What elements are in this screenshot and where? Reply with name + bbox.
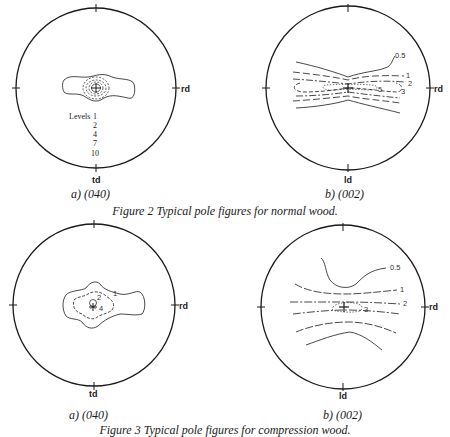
figure-3-caption: Figure 3 Typical pole figures for compre…: [0, 424, 450, 436]
contour-label: 3: [364, 306, 368, 314]
panel-label-3b: b) (002): [323, 409, 362, 421]
axis-label-rd: rd: [181, 85, 190, 94]
contour-label: 0.5: [395, 52, 405, 60]
panel-label-2b: b) (002): [325, 188, 364, 200]
contour-label: 1: [400, 286, 404, 294]
panel-label-2a: a) (040): [71, 188, 110, 200]
level-value: 10: [91, 149, 99, 158]
axis-label-td: td: [89, 390, 98, 399]
axis-label-td: td: [92, 176, 101, 185]
panel-label-3a: a) (040): [69, 409, 108, 421]
level-value: 2: [93, 121, 97, 130]
axis-label-ld: ld: [344, 176, 352, 185]
contour-label: 1: [113, 290, 117, 298]
contour-label: 2: [97, 294, 101, 302]
pole-figures-drawing: [0, 0, 450, 437]
levels-title: Levels: [69, 112, 90, 121]
contour-label: 4: [99, 305, 103, 313]
level-value: 4: [93, 130, 97, 139]
contour-label: 5: [378, 86, 382, 94]
axis-label-rd: rd: [179, 302, 188, 311]
contour-label: 2: [408, 80, 412, 88]
contour-label: 0.5: [390, 264, 400, 272]
level-value: 1: [93, 112, 97, 121]
pole-figure-3a: [9, 220, 179, 390]
axis-label-ld: ld: [339, 392, 347, 401]
pole-figure-2b: [262, 4, 434, 172]
figure-2-caption: Figure 2 Typical pole figures for normal…: [0, 205, 450, 217]
contour-label: 3: [401, 88, 405, 96]
contour-label: 2: [403, 300, 407, 308]
axis-label-rd: rd: [429, 303, 438, 312]
level-value: 7: [93, 139, 97, 148]
axis-label-rd: rd: [434, 85, 443, 94]
